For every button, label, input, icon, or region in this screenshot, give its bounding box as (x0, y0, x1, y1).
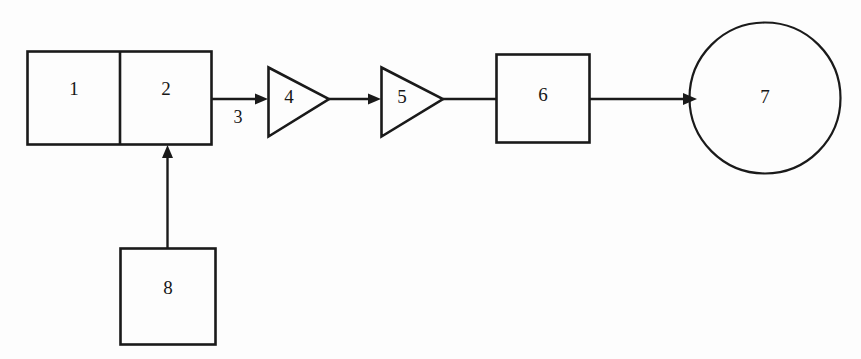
node-label-5: 5 (397, 86, 407, 107)
edge-4-5-group[interactable] (329, 94, 381, 105)
node-label-8: 8 (163, 277, 173, 298)
edge-3-arrowhead (255, 94, 268, 105)
node-label-2: 2 (161, 78, 171, 99)
node-group-4[interactable]: 4 (269, 68, 330, 137)
diagram-canvas: 1 2 3 4 5 6 (0, 0, 861, 359)
node-label-4: 4 (284, 86, 294, 107)
node-group-7[interactable]: 7 (690, 23, 841, 174)
edge-3-group[interactable]: 3 (212, 94, 269, 128)
edge-6-7-group[interactable] (590, 93, 698, 105)
node-label-1: 1 (69, 78, 79, 99)
node-label-7: 7 (760, 86, 770, 107)
node-label-6: 6 (538, 84, 548, 105)
node-group-5[interactable]: 5 (382, 68, 444, 137)
node-group-1-2[interactable]: 1 2 (28, 52, 212, 145)
edge-4-5-arrowhead (368, 94, 381, 105)
block-diagram: 1 2 3 4 5 6 (0, 0, 861, 359)
edge-8-2-arrowhead (162, 145, 173, 158)
node-group-6[interactable]: 6 (497, 55, 590, 143)
edge-8-2-group[interactable] (162, 145, 173, 249)
node-triangle-5[interactable] (382, 68, 444, 137)
edge-label-3: 3 (234, 107, 243, 127)
node-triangle-4[interactable] (269, 68, 330, 137)
node-group-8[interactable]: 8 (121, 249, 216, 345)
